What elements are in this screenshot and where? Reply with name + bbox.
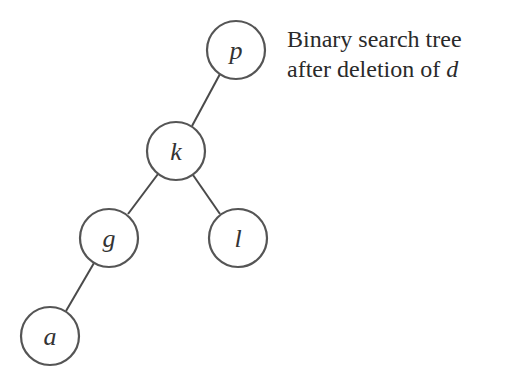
edge-g-a [66,263,94,311]
node-k: k [147,122,205,180]
node-label-p: p [228,36,243,65]
node-p: p [207,21,265,79]
node-a: a [21,307,79,365]
node-label-k: k [170,137,182,166]
node-label-g: g [103,224,116,253]
caption-line-2: after deletion of d [287,54,462,84]
diagram-caption: Binary search tree after deletion of d [287,24,462,84]
caption-line-2-text: after deletion of [287,56,446,82]
node-label-a: a [44,322,57,351]
caption-deleted-key: d [446,56,458,82]
edge-k-l [193,175,220,214]
node-l: l [209,209,267,267]
node-g: g [80,209,138,267]
edges [66,74,220,311]
edge-k-g [128,174,158,214]
caption-line-1: Binary search tree [287,24,462,54]
node-label-l: l [234,224,241,253]
edge-p-k [192,74,220,126]
